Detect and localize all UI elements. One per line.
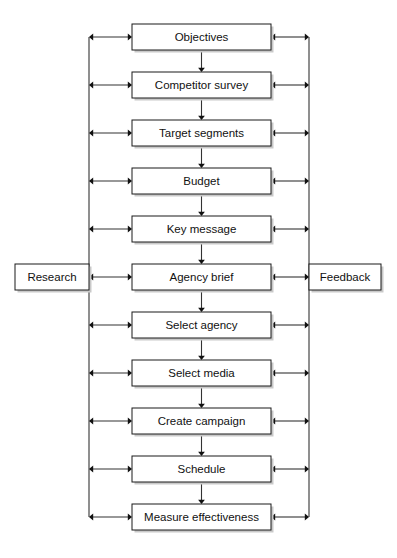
arrow-head-left	[89, 514, 93, 521]
process-node-target-segments[interactable]: Target segments	[132, 120, 271, 146]
feedback-link-objectives	[271, 34, 309, 41]
flow-arrow-target-segments-to-budget	[198, 146, 205, 168]
feedback-link-create-campaign	[271, 418, 309, 425]
feedback-link-agency-brief	[271, 274, 309, 281]
node-label: Research	[27, 271, 76, 283]
node-label: Create campaign	[158, 415, 246, 427]
arrow-head-right	[128, 466, 132, 473]
node-label: Select media	[168, 367, 235, 379]
research-link-create-campaign	[89, 418, 132, 425]
flow-arrow-schedule-to-measure-effectiveness	[198, 482, 205, 504]
process-node-agency-brief[interactable]: Agency brief	[132, 264, 271, 290]
process-node-select-agency[interactable]: Select agency	[132, 312, 271, 338]
flow-arrow-competitor-survey-to-target-segments	[198, 98, 205, 120]
research-link-select-agency	[89, 322, 132, 329]
node-label: Key message	[167, 223, 237, 235]
arrow-head-right	[305, 322, 309, 329]
research-link-competitor-survey	[89, 82, 132, 89]
arrow-head-left	[89, 226, 93, 233]
flowchart-canvas: ObjectivesCompetitor surveyTarget segmen…	[0, 0, 397, 558]
feedback-link-select-agency	[271, 322, 309, 329]
feedback-link-select-media	[271, 370, 309, 377]
research-link-select-media	[89, 370, 132, 377]
arrow-head-right	[305, 178, 309, 185]
arrow-head-right	[305, 274, 309, 281]
arrow-head-down	[198, 164, 205, 168]
arrow-head-down	[198, 404, 205, 408]
arrow-head-left	[89, 418, 93, 425]
arrow-head-left	[89, 178, 93, 185]
feedback-link-budget	[271, 178, 309, 185]
feedback-link-target-segments	[271, 130, 309, 137]
research-link-budget	[89, 178, 132, 185]
arrow-head-left	[89, 322, 93, 329]
arrow-head-right	[128, 82, 132, 89]
arrow-head-down	[198, 500, 205, 504]
arrow-head-left	[89, 34, 93, 41]
arrow-head-left	[89, 82, 93, 89]
flow-arrow-objectives-to-competitor-survey	[198, 50, 205, 72]
process-node-schedule[interactable]: Schedule	[132, 456, 271, 482]
process-node-budget[interactable]: Budget	[132, 168, 271, 194]
arrow-head-left	[89, 466, 93, 473]
arrow-head-right	[128, 322, 132, 329]
arrow-head-right	[128, 514, 132, 521]
flow-arrow-select-media-to-create-campaign	[198, 386, 205, 408]
process-node-key-message[interactable]: Key message	[132, 216, 271, 242]
arrow-head-right	[128, 418, 132, 425]
research-link-measure-effectiveness	[89, 514, 132, 521]
side-node-feedback[interactable]: Feedback	[309, 264, 384, 293]
arrow-head-down	[198, 212, 205, 216]
feedback-link-schedule	[271, 466, 309, 473]
arrow-head-right	[305, 226, 309, 233]
process-node-objectives[interactable]: Objectives	[132, 24, 271, 50]
node-label: Objectives	[175, 31, 229, 43]
arrow-head-down	[198, 356, 205, 360]
research-link-key-message	[89, 226, 132, 233]
node-label: Agency brief	[170, 271, 235, 283]
process-nodes-layer: ObjectivesCompetitor surveyTarget segmen…	[132, 24, 274, 533]
node-label: Target segments	[159, 127, 244, 139]
node-label: Select agency	[165, 319, 237, 331]
node-label: Measure effectiveness	[144, 511, 259, 523]
feedback-link-key-message	[271, 226, 309, 233]
process-node-select-media[interactable]: Select media	[132, 360, 271, 386]
research-link-objectives	[89, 34, 132, 41]
node-label: Competitor survey	[155, 79, 249, 91]
research-link-agency-brief	[89, 274, 132, 281]
arrow-head-right	[305, 370, 309, 377]
process-node-competitor-survey[interactable]: Competitor survey	[132, 72, 271, 98]
arrow-head-right	[128, 34, 132, 41]
arrow-head-left	[89, 130, 93, 137]
arrow-head-right	[305, 466, 309, 473]
flowchart-diagram: ObjectivesCompetitor surveyTarget segmen…	[0, 0, 397, 558]
arrow-head-right	[128, 130, 132, 137]
arrow-head-right	[305, 418, 309, 425]
arrow-head-down	[198, 308, 205, 312]
arrow-head-right	[305, 34, 309, 41]
arrow-head-right	[128, 178, 132, 185]
flow-arrow-create-campaign-to-schedule	[198, 434, 205, 456]
node-label: Feedback	[320, 271, 371, 283]
research-link-target-segments	[89, 130, 132, 137]
side-node-research[interactable]: Research	[15, 264, 92, 293]
arrow-head-left	[89, 370, 93, 377]
feedback-link-measure-effectiveness	[271, 514, 309, 521]
process-node-create-campaign[interactable]: Create campaign	[132, 408, 271, 434]
flow-arrow-budget-to-key-message	[198, 194, 205, 216]
flow-arrow-key-message-to-agency-brief	[198, 242, 205, 264]
arrow-head-right	[128, 274, 132, 281]
flow-arrow-select-agency-to-select-media	[198, 338, 205, 360]
arrow-head-right	[305, 82, 309, 89]
feedback-link-competitor-survey	[271, 82, 309, 89]
arrow-head-down	[198, 116, 205, 120]
arrow-head-right	[128, 370, 132, 377]
node-label: Schedule	[178, 463, 226, 475]
arrow-head-right	[305, 130, 309, 137]
node-label: Budget	[183, 175, 220, 187]
arrow-head-right	[305, 514, 309, 521]
process-node-measure-effectiveness[interactable]: Measure effectiveness	[132, 504, 271, 530]
flow-arrow-agency-brief-to-select-agency	[198, 290, 205, 312]
arrow-head-down	[198, 68, 205, 72]
research-link-schedule	[89, 466, 132, 473]
